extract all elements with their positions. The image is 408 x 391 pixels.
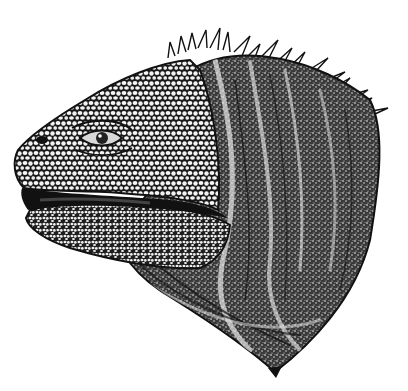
iguana-illustration: Iguana head illustration <box>0 0 408 391</box>
nostril <box>36 136 48 144</box>
neck-tip <box>268 366 282 378</box>
iguana-head-drawing <box>0 0 408 391</box>
